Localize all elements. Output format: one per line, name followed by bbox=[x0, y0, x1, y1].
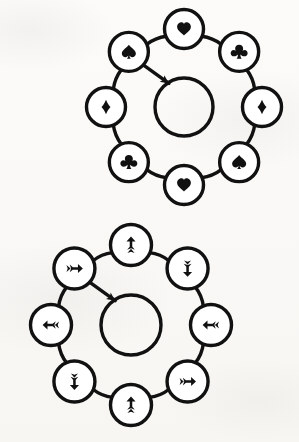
ring-link bbox=[149, 389, 169, 397]
ring-node-club-bottom-left[interactable] bbox=[109, 143, 148, 182]
ring-link bbox=[146, 169, 166, 177]
ring-link bbox=[59, 287, 67, 307]
ring-link bbox=[202, 169, 222, 177]
ring-link bbox=[113, 69, 121, 89]
ring-node-heart-bottom[interactable] bbox=[165, 166, 204, 205]
center-circle bbox=[101, 295, 161, 355]
card-suit-ring-diagram bbox=[0, 0, 299, 215]
ring-link bbox=[246, 125, 254, 145]
ring-node-club-top-right[interactable] bbox=[220, 32, 259, 71]
ring-link bbox=[246, 69, 254, 89]
ring-link bbox=[93, 253, 113, 261]
ring-link bbox=[146, 36, 166, 44]
clockwise-direction-arrow bbox=[89, 282, 117, 304]
ring-link bbox=[93, 389, 113, 397]
ring-node-right-bottom-right[interactable] bbox=[167, 361, 208, 402]
ring-node-up-bottom[interactable] bbox=[111, 385, 152, 426]
ring-node-spade-bottom-right[interactable] bbox=[220, 143, 259, 182]
ring-link bbox=[59, 343, 67, 363]
ring-link bbox=[195, 287, 203, 307]
ring-node-diamond-left[interactable] bbox=[87, 88, 126, 127]
ring-link bbox=[202, 36, 222, 44]
ring-node-up-top[interactable] bbox=[111, 225, 152, 266]
center-circle bbox=[155, 78, 213, 136]
direction-arrow-ring-diagram bbox=[0, 215, 299, 442]
ring-node-heart-top[interactable] bbox=[165, 10, 204, 49]
ring-node-left-right[interactable] bbox=[191, 305, 232, 346]
clockwise-direction-arrow bbox=[143, 65, 171, 87]
ring-node-down-top-right[interactable] bbox=[167, 248, 208, 289]
ring-node-spade-top-left[interactable] bbox=[109, 32, 148, 71]
ring-node-right-top-left[interactable] bbox=[54, 248, 95, 289]
ring-node-down-bottom-left[interactable] bbox=[54, 361, 95, 402]
ring-node-left-left[interactable] bbox=[31, 305, 72, 346]
ring-link bbox=[195, 343, 203, 363]
ring-link bbox=[113, 125, 121, 145]
ring-link bbox=[149, 253, 169, 261]
ring-node-diamond-right[interactable] bbox=[243, 88, 282, 127]
